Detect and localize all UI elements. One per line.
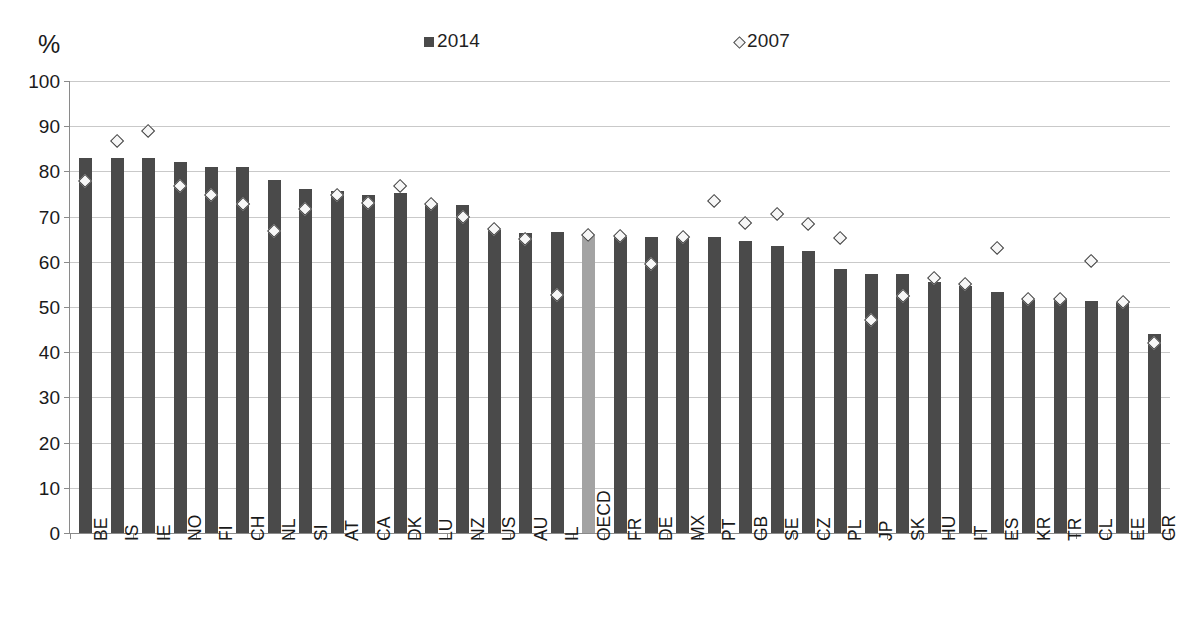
x-label-AU: AU — [533, 517, 551, 541]
legend-item-2007: 2007 — [734, 30, 790, 52]
x-label-US: US — [501, 517, 519, 541]
legend-square-icon — [424, 37, 434, 47]
x-label-TR: TR — [1067, 518, 1085, 541]
x-label-IL: IL — [564, 526, 582, 541]
x-label-IS: IS — [124, 524, 142, 541]
legend-diamond-icon — [734, 37, 744, 47]
y-tick-label-50: 50 — [16, 298, 60, 317]
x-label-NZ: NZ — [470, 518, 488, 541]
chart-legend: 2014 2007 — [0, 30, 1185, 60]
x-label-CA: CA — [376, 517, 394, 541]
y-tick-label-10: 10 — [16, 479, 60, 498]
x-label-JP: JP — [878, 521, 896, 541]
x-label-DK: DK — [407, 517, 425, 541]
x-label-EE: EE — [1130, 518, 1148, 541]
x-label-FI: FI — [218, 525, 236, 541]
x-label-IE: IE — [156, 524, 174, 541]
legend-label-2007: 2007 — [747, 30, 790, 52]
x-label-SE: SE — [784, 518, 802, 541]
x-label-CH: CH — [250, 516, 268, 541]
x-label-HU: HU — [941, 516, 959, 541]
x-label-NL: NL — [281, 519, 299, 541]
x-label-LU: LU — [438, 519, 456, 541]
x-label-SK: SK — [910, 518, 928, 541]
x-label-DE: DE — [658, 517, 676, 541]
x-label-ES: ES — [1004, 518, 1022, 541]
x-label-NO: NO — [187, 515, 205, 541]
legend-label-2014: 2014 — [437, 30, 480, 52]
x-label-IT: IT — [973, 525, 991, 541]
y-tick-label-0: 0 — [16, 524, 60, 543]
y-tick-label-40: 40 — [16, 343, 60, 362]
y-tick-label-30: 30 — [16, 388, 60, 407]
x-label-GR: GR — [1161, 515, 1179, 541]
chart-container: % 2014 2007 0102030405060708090100 BEISI… — [0, 0, 1185, 628]
x-label-GB: GB — [753, 516, 771, 541]
x-label-MX: MX — [690, 515, 708, 541]
plot-area — [70, 81, 1170, 533]
x-label-CL: CL — [1098, 519, 1116, 541]
x-label-PL: PL — [847, 520, 865, 541]
x-label-KR: KR — [1036, 517, 1054, 541]
x-label-BE: BE — [93, 518, 111, 541]
y-tick-label-90: 90 — [16, 117, 60, 136]
legend-item-2014: 2014 — [424, 30, 480, 52]
x-label-CZ: CZ — [816, 518, 834, 541]
x-ticks-layer — [70, 81, 1170, 533]
x-label-PT: PT — [721, 519, 739, 541]
y-tick-label-60: 60 — [16, 253, 60, 272]
y-tick-label-100: 100 — [16, 72, 60, 91]
y-tick-label-70: 70 — [16, 208, 60, 227]
x-label-OECD: OECD — [596, 490, 614, 541]
x-label-AT: AT — [344, 520, 362, 541]
y-tick-label-20: 20 — [16, 434, 60, 453]
x-tick-0 — [70, 533, 71, 539]
x-label-SI: SI — [313, 524, 331, 541]
x-label-FR: FR — [627, 518, 645, 541]
y-tick-label-80: 80 — [16, 162, 60, 181]
